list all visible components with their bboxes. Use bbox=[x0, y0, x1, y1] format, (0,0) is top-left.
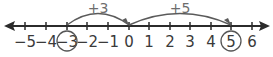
jump-label: +5 bbox=[170, 0, 191, 16]
tick-label: −4 bbox=[35, 33, 57, 51]
tick-label: 5 bbox=[226, 33, 236, 51]
jump-arcs: +3+5 bbox=[67, 0, 231, 25]
tick-label: 2 bbox=[165, 33, 175, 51]
tick-labels: −5−4−3−2−10123456 bbox=[14, 33, 257, 51]
tick-label: −1 bbox=[97, 33, 119, 51]
tick-label: 0 bbox=[124, 33, 134, 51]
tick-label: −2 bbox=[76, 33, 98, 51]
tick-label: −5 bbox=[14, 33, 36, 51]
jump-label: +3 bbox=[88, 0, 109, 16]
tick-label: 4 bbox=[206, 33, 216, 51]
number-line-svg: −5−4−3−2−10123456 +3+5 bbox=[0, 0, 273, 57]
tick-label: 6 bbox=[247, 33, 257, 51]
number-line-diagram: −5−4−3−2−10123456 +3+5 bbox=[0, 0, 273, 57]
tick-label: 1 bbox=[144, 33, 154, 51]
tick-label: 3 bbox=[185, 33, 195, 51]
